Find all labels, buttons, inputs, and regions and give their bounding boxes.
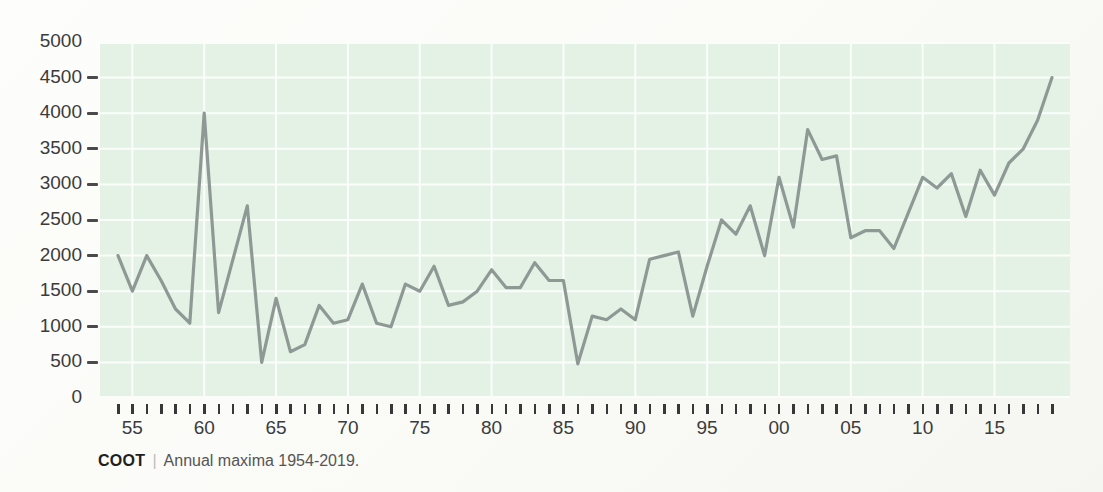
x-axis-tick (634, 404, 637, 414)
x-axis-tick (879, 404, 882, 414)
x-axis-tick (1022, 404, 1025, 414)
x-axis-tick (1008, 404, 1011, 414)
x-axis-tick (663, 404, 666, 414)
caption-source: COOT (98, 452, 145, 469)
x-axis-label: 90 (615, 417, 655, 439)
x-axis-tick (447, 404, 450, 414)
y-axis-label: 1500 (0, 281, 82, 299)
chart-figure: 0500100015002000250030003500400045005000… (0, 0, 1103, 492)
x-axis-tick (979, 404, 982, 414)
y-axis-tick (87, 219, 98, 222)
x-axis-tick (692, 404, 695, 414)
x-axis-tick (534, 404, 537, 414)
y-axis-label: 0 (0, 388, 82, 406)
x-axis-tick (203, 404, 206, 414)
x-axis-label: 10 (903, 417, 943, 439)
y-axis-label: 2500 (0, 210, 82, 228)
x-axis-tick (1037, 404, 1040, 414)
x-axis-tick (519, 404, 522, 414)
figure-caption: COOT|Annual maxima 1954-2019. (98, 452, 359, 470)
x-axis-tick (965, 404, 968, 414)
x-axis-tick (419, 404, 422, 414)
x-axis-label: 15 (975, 417, 1015, 439)
x-axis-tick (289, 404, 292, 414)
x-axis-tick (893, 404, 896, 414)
x-axis-tick (591, 404, 594, 414)
y-axis-label: 1000 (0, 317, 82, 335)
y-axis-tick (87, 325, 98, 328)
x-axis-tick (261, 404, 264, 414)
y-axis-label: 4000 (0, 103, 82, 121)
x-axis-label: 70 (328, 417, 368, 439)
x-axis-tick (778, 404, 781, 414)
x-axis-tick (361, 404, 364, 414)
y-axis-label: 3500 (0, 139, 82, 157)
caption-text: Annual maxima 1954-2019. (164, 452, 360, 469)
caption-separator: | (145, 452, 163, 469)
x-axis-tick (562, 404, 565, 414)
x-axis-tick (606, 404, 609, 414)
x-axis-tick (649, 404, 652, 414)
x-axis-tick (505, 404, 508, 414)
x-axis-tick (304, 404, 307, 414)
x-axis-tick (807, 404, 810, 414)
y-axis-tick (87, 254, 98, 257)
y-axis-label: 3000 (0, 174, 82, 192)
x-axis-tick (491, 404, 494, 414)
x-axis-tick (333, 404, 336, 414)
x-axis-tick (792, 404, 795, 414)
x-axis-tick (1051, 404, 1054, 414)
x-axis-tick (462, 404, 465, 414)
x-axis-label: 85 (543, 417, 583, 439)
x-axis-label: 05 (831, 417, 871, 439)
x-axis-tick (218, 404, 221, 414)
y-axis-tick (87, 361, 98, 364)
x-axis-label: 00 (759, 417, 799, 439)
x-axis-tick (189, 404, 192, 414)
y-axis-label: 4500 (0, 68, 82, 86)
x-axis-tick (476, 404, 479, 414)
x-axis-tick (821, 404, 824, 414)
y-axis-tick (87, 112, 98, 115)
x-axis-tick (376, 404, 379, 414)
x-axis-tick (749, 404, 752, 414)
y-axis-tick (87, 147, 98, 150)
x-axis-label: 55 (112, 417, 152, 439)
x-axis-label: 65 (256, 417, 296, 439)
x-axis-tick (994, 404, 997, 414)
x-axis-label: 75 (400, 417, 440, 439)
x-axis-tick (275, 404, 278, 414)
y-axis-tick (87, 290, 98, 293)
x-axis-tick (864, 404, 867, 414)
x-axis-label: 80 (472, 417, 512, 439)
x-axis-tick (706, 404, 709, 414)
x-axis-tick (404, 404, 407, 414)
x-axis-tick (922, 404, 925, 414)
x-axis-tick (174, 404, 177, 414)
x-axis-tick (677, 404, 680, 414)
y-axis-tick (87, 76, 98, 79)
x-axis-tick (950, 404, 953, 414)
x-axis-tick (390, 404, 393, 414)
x-axis-label: 60 (184, 417, 224, 439)
x-axis-tick (721, 404, 724, 414)
y-axis-label: 2000 (0, 246, 82, 264)
y-axis-label: 5000 (0, 32, 82, 50)
x-axis-tick (577, 404, 580, 414)
x-axis-tick (347, 404, 350, 414)
x-axis-tick (117, 404, 120, 414)
x-axis-tick (764, 404, 767, 414)
x-axis-tick (835, 404, 838, 414)
x-axis-tick (936, 404, 939, 414)
y-axis-label: 500 (0, 352, 82, 370)
x-axis-tick (735, 404, 738, 414)
x-axis-tick (232, 404, 235, 414)
x-axis-tick (433, 404, 436, 414)
chart-canvas (100, 42, 1070, 398)
x-axis-tick (548, 404, 551, 414)
x-axis-tick (620, 404, 623, 414)
y-axis-tick (87, 183, 98, 186)
x-axis-tick (160, 404, 163, 414)
x-axis-tick (907, 404, 910, 414)
x-axis-tick (318, 404, 321, 414)
